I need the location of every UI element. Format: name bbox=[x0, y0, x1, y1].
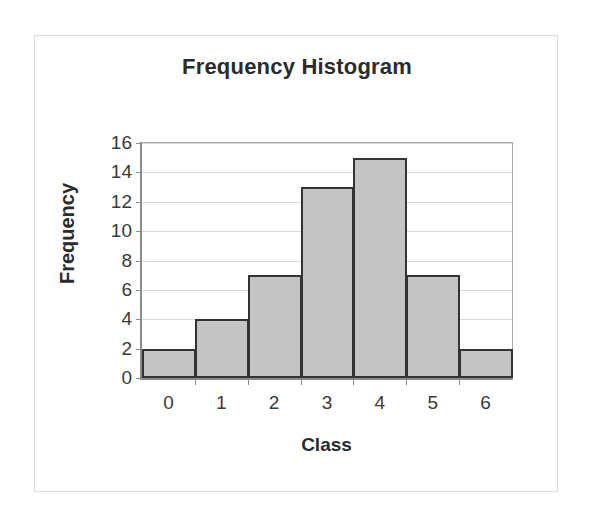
x-axis-tick-label: 4 bbox=[375, 392, 386, 414]
y-axis-tick-label: 4 bbox=[121, 308, 132, 330]
x-axis-tick bbox=[301, 378, 302, 385]
y-axis-tick-label: 8 bbox=[121, 250, 132, 272]
y-axis-tick bbox=[136, 172, 142, 173]
histogram-bar bbox=[248, 275, 302, 378]
x-axis-tick bbox=[459, 378, 460, 385]
y-axis-tick bbox=[136, 202, 142, 203]
x-axis-tick-label: 5 bbox=[427, 392, 438, 414]
y-axis-tick-label: 6 bbox=[121, 279, 132, 301]
y-axis-tick-label: 12 bbox=[111, 191, 132, 213]
gridline bbox=[142, 143, 512, 144]
chart-frame: Frequency Histogram Frequency 0246810121… bbox=[34, 35, 558, 492]
x-axis-tick-label: 6 bbox=[480, 392, 491, 414]
chart-title: Frequency Histogram bbox=[35, 54, 559, 80]
x-axis-tick bbox=[248, 378, 249, 385]
y-axis-tick bbox=[136, 378, 142, 379]
y-axis-tick bbox=[136, 231, 142, 232]
x-axis-tick-label: 2 bbox=[269, 392, 280, 414]
x-axis-tick-label: 1 bbox=[216, 392, 227, 414]
y-axis-title: Frequency bbox=[56, 164, 79, 304]
histogram-bar bbox=[195, 319, 249, 378]
x-axis-tick bbox=[406, 378, 407, 385]
y-axis-tick-label: 16 bbox=[111, 132, 132, 154]
y-axis-tick-label: 14 bbox=[111, 161, 132, 183]
gridline bbox=[142, 172, 512, 173]
y-axis-tick bbox=[136, 319, 142, 320]
histogram-bar bbox=[459, 349, 513, 378]
x-axis-tick-label: 3 bbox=[322, 392, 333, 414]
x-axis-tick bbox=[353, 378, 354, 385]
y-axis-tick-label: 2 bbox=[121, 338, 132, 360]
y-axis-tick bbox=[136, 261, 142, 262]
y-axis-tick bbox=[136, 290, 142, 291]
x-axis-tick-label: 0 bbox=[163, 392, 174, 414]
histogram-bar bbox=[301, 187, 355, 378]
histogram-bar bbox=[406, 275, 460, 378]
y-axis-tick-label: 10 bbox=[111, 220, 132, 242]
x-axis-tick bbox=[195, 378, 196, 385]
y-axis-tick-label: 0 bbox=[121, 367, 132, 389]
plot-area: 0246810121416 0123456 bbox=[140, 142, 513, 380]
histogram-bar bbox=[353, 158, 407, 378]
histogram-bar bbox=[142, 349, 196, 378]
y-axis-tick bbox=[136, 143, 142, 144]
x-axis-title: Class bbox=[140, 434, 513, 456]
